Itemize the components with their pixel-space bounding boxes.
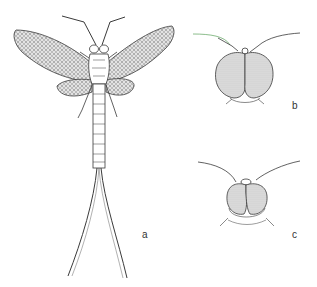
panel-c-head: [198, 161, 300, 226]
hindwing-left: [57, 79, 92, 96]
figure-drawing: [0, 0, 317, 287]
forewing-left: [14, 30, 92, 82]
hindwing-right: [106, 79, 134, 95]
panel-a-mayfly: [14, 16, 174, 278]
panel-b-head: [193, 33, 300, 104]
panel-label-c: c: [292, 230, 297, 240]
compound-eye-left-c: [227, 184, 247, 215]
head-eye-right: [100, 45, 109, 53]
panel-label-b: b: [292, 101, 298, 111]
abdomen: [93, 84, 105, 168]
panel-label-a: a: [142, 230, 148, 240]
cercus-right: [101, 168, 127, 278]
compound-eye-left-b: [216, 53, 246, 99]
cercus-left: [68, 168, 97, 276]
compound-eye-right-b: [245, 53, 273, 99]
compound-eye-right-c: [246, 184, 267, 215]
forewing-right: [106, 26, 174, 82]
mayfly-figure: a b c: [0, 0, 317, 287]
antenna-left-icon: [62, 16, 96, 45]
antenna-right-icon: [102, 17, 125, 45]
thorax: [89, 54, 110, 84]
head-eye-left: [90, 45, 99, 53]
